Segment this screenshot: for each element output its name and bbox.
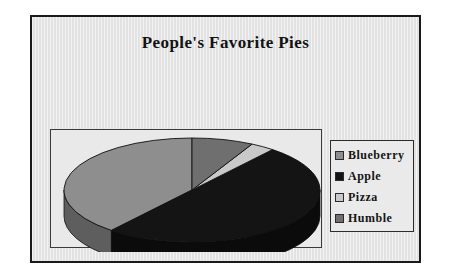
legend-swatch-humble [335, 214, 344, 223]
chart-legend: Blueberry Apple Pizza Humble [330, 140, 414, 232]
legend-label-pizza: Pizza [348, 190, 378, 205]
pie-chart-graphic [49, 116, 325, 252]
legend-label-blueberry: Blueberry [348, 148, 405, 163]
legend-label-apple: Apple [348, 169, 381, 184]
legend-swatch-pizza [335, 193, 344, 202]
legend-item-pizza[interactable]: Pizza [335, 187, 410, 208]
legend-item-apple[interactable]: Apple [335, 166, 410, 187]
legend-item-humble[interactable]: Humble [335, 208, 410, 229]
legend-swatch-apple [335, 172, 344, 181]
legend-item-blueberry[interactable]: Blueberry [335, 145, 410, 166]
chart-frame: People's Favorite Pies Blueberry Apple P… [30, 15, 421, 263]
chart-title: People's Favorite Pies [32, 33, 419, 53]
legend-label-humble: Humble [348, 211, 392, 226]
legend-swatch-blueberry [335, 151, 344, 160]
plot-area [50, 129, 322, 248]
